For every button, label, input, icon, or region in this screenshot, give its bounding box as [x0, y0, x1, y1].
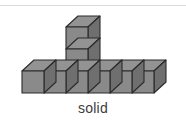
top-divider-rule	[0, 5, 186, 6]
figure-caption: solid	[0, 100, 186, 116]
figure-card: solid	[0, 0, 186, 128]
cube-face	[22, 71, 44, 93]
isometric-cube-solid-icon	[0, 8, 186, 104]
solid-figure	[0, 8, 186, 104]
